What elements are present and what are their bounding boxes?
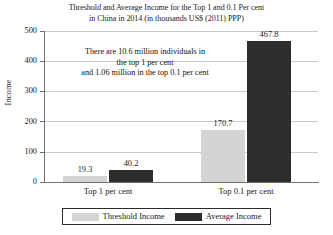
chart-container: Threshold and Average Income for the Top… bbox=[0, 0, 333, 235]
y-tick-label-300: 300 bbox=[0, 87, 37, 95]
y-tick-label-200: 200 bbox=[0, 118, 37, 126]
y-tick-label-100: 100 bbox=[0, 148, 37, 156]
chart-title-line-1: Threshold and Average Income for the Top… bbox=[0, 2, 333, 13]
y-tick-label-100-wrap: 100 bbox=[0, 148, 37, 157]
chart-title-line-2: in China in 2014 (in thousands US$ (2011… bbox=[0, 13, 333, 24]
x-axis-line bbox=[44, 182, 319, 183]
legend-label-average: Average Income bbox=[206, 212, 262, 221]
x-category-label-top-01: Top 0.1 per cent bbox=[201, 186, 291, 196]
legend-swatch-threshold-icon bbox=[72, 213, 99, 221]
legend-swatch-average-icon bbox=[175, 213, 202, 221]
value-label-average-top-1: 40.2 bbox=[99, 159, 163, 168]
value-label-threshold-top-01: 170.7 bbox=[191, 119, 255, 128]
annotation-line-2: the top 1 per cent bbox=[52, 58, 238, 69]
y-tick-label-200-wrap: 200 bbox=[0, 118, 37, 127]
y-tick-label-0: 0 bbox=[0, 178, 37, 186]
x-category-label-top-1: Top 1 per cent bbox=[63, 186, 153, 196]
y-tick-label-500: 500 bbox=[0, 27, 37, 35]
chart-title: Threshold and Average Income for the Top… bbox=[0, 2, 333, 25]
legend-label-threshold: Threshold Income bbox=[103, 212, 165, 221]
chart-annotation: There are 10.6 million individuals in th… bbox=[52, 47, 238, 79]
y-tick-label-400: 400 bbox=[0, 57, 37, 65]
bar-threshold-top-1[interactable] bbox=[63, 176, 107, 182]
y-tick-label-0-wrap: 0 bbox=[0, 178, 37, 187]
bar-threshold-top-01[interactable] bbox=[201, 130, 245, 182]
y-tick-label-500-wrap: 500 bbox=[0, 27, 37, 36]
chart-legend: Threshold Income Average Income bbox=[62, 208, 271, 225]
annotation-line-1: There are 10.6 million individuals in bbox=[52, 47, 238, 58]
legend-entry-average[interactable]: Average Income bbox=[175, 212, 262, 221]
legend-entry-threshold[interactable]: Threshold Income bbox=[72, 212, 165, 221]
annotation-line-3: and 1.06 million in the top 0.1 per cent bbox=[52, 68, 238, 79]
y-tick-label-300-wrap: 300 bbox=[0, 87, 37, 96]
bar-average-top-01[interactable] bbox=[247, 41, 291, 182]
value-label-average-top-01: 467.8 bbox=[237, 30, 301, 39]
y-tick-label-400-wrap: 400 bbox=[0, 57, 37, 66]
